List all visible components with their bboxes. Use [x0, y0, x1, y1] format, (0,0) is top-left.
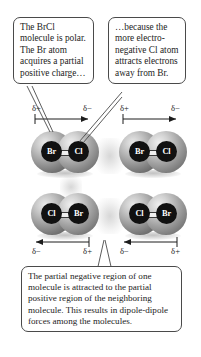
atom-label-br: Br	[68, 203, 89, 224]
delta-plus-label: δ+	[171, 246, 180, 256]
callout-bottom: The partial negative region of one molec…	[21, 266, 182, 332]
dipole-labels-bottom-right: δ− δ+	[119, 246, 181, 257]
molecule-bottom-left: Cl Br	[31, 190, 99, 240]
molecule-top-right: Br Cl	[119, 128, 187, 178]
callout-left-tail	[26, 86, 58, 134]
callout-left: The BrCl molecule is polar. The Br atom …	[13, 17, 94, 84]
atom-label-br: Br	[41, 141, 62, 162]
atom-label-cl: Cl	[41, 203, 62, 224]
dipole-arrow-bottom-left: δ− δ+	[31, 236, 93, 258]
atom-label-cl: Cl	[156, 141, 177, 162]
atom-label-cl: Cl	[129, 203, 150, 224]
dipole-arrow-bottom-right: δ− δ+	[119, 236, 181, 258]
delta-minus-label: δ−	[120, 246, 129, 256]
dipole-dipole-figure: The BrCl molecule is polar. The Br atom …	[0, 0, 201, 357]
dipole-arrow-top-right: δ+ δ−	[119, 103, 181, 125]
delta-plus-label: δ+	[83, 246, 92, 256]
dipole-labels-bottom-left: δ− δ+	[31, 246, 93, 257]
atom-label-cl: Cl	[68, 141, 89, 162]
delta-minus-label: δ−	[32, 246, 41, 256]
atom-label-br: Br	[156, 203, 177, 224]
callout-right: …because the more electro-negative Cl at…	[108, 17, 186, 84]
atom-label-br: Br	[129, 141, 150, 162]
callout-right-tail	[78, 92, 124, 144]
dipole-vector-right	[119, 112, 181, 124]
molecule-bottom-right: Cl Br	[119, 190, 187, 240]
